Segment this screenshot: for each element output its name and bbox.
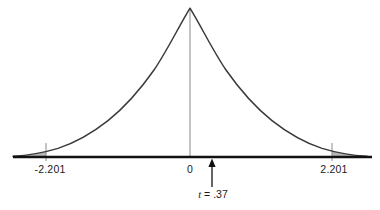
axis-label-center: 0 <box>172 163 208 175</box>
distribution-plot <box>0 0 380 210</box>
test-statistic-label: t = .37 <box>176 188 250 200</box>
axis-label-right-critical: 2.201 <box>306 163 362 175</box>
test-statistic-arrow <box>208 159 215 188</box>
test-statistic-number: .37 <box>213 188 228 200</box>
axis-label-left-critical: -2.201 <box>22 163 78 175</box>
t-distribution-figure: -2.201 0 2.201 t = .37 <box>0 0 380 210</box>
test-statistic-symbol: t <box>198 189 201 200</box>
test-statistic-equals: = <box>204 188 210 200</box>
